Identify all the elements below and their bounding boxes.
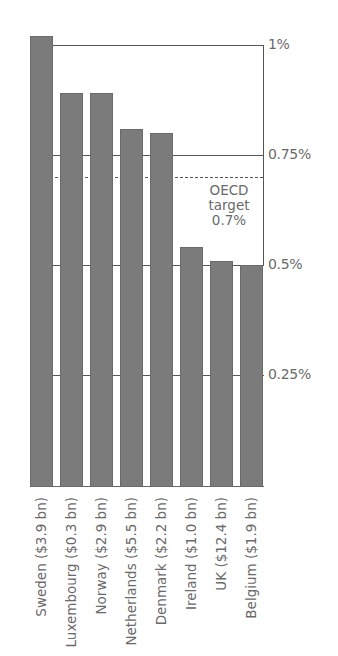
y-tick-label: 1%: [268, 36, 290, 52]
gridline-1%: [30, 45, 264, 46]
bar-1: [60, 93, 83, 487]
x-category-label: Ireland ($1.0 bn): [183, 497, 199, 656]
y-tick-label: 0.75%: [268, 146, 311, 162]
x-category-label: Norway ($2.9 bn): [93, 497, 109, 656]
x-category-label: Belgium ($1.9 bn): [243, 497, 259, 656]
x-category-label: Luxembourg ($0.3 bn): [63, 497, 79, 656]
x-category-label: UK ($12.4 bn): [213, 497, 229, 656]
bar-4: [150, 133, 173, 487]
oecd-target-label-line: target: [199, 198, 259, 213]
right-axis-line: [263, 45, 264, 265]
y-tick-label: 0.5%: [268, 256, 302, 272]
bar-5: [180, 247, 203, 487]
bar-6: [210, 261, 233, 487]
bar-7: [240, 265, 263, 487]
x-category-label: Denmark ($2.2 bn): [153, 497, 169, 656]
x-category-label: Sweden ($3.9 bn): [33, 497, 49, 656]
bar-3: [120, 129, 143, 487]
y-tick-label: 0.25%: [268, 366, 311, 382]
x-category-label: Netherlands ($5.5 bn): [123, 497, 139, 656]
bar-2: [90, 93, 113, 487]
oecd-target-label-line: OECD: [199, 183, 259, 198]
oecd-target-label-line: 0.7%: [199, 213, 259, 228]
oda-bar-chart: 1%0.75%0.5%0.25%OECDtarget0.7%Sweden ($3…: [0, 0, 338, 656]
bar-0: [30, 36, 53, 487]
oecd-target-label: OECDtarget0.7%: [199, 183, 259, 228]
